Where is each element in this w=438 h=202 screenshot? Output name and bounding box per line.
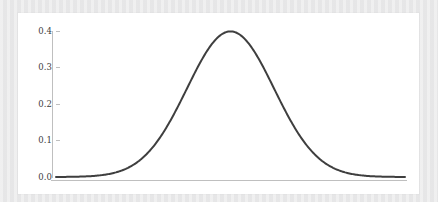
plot-area: 0.4 0.3 0.2 0.1 0.0 [18, 13, 419, 194]
chart-canvas [18, 13, 419, 194]
figure-card: 0.4 0.3 0.2 0.1 0.0 [18, 13, 419, 194]
normal-distribution-curve [56, 31, 405, 177]
